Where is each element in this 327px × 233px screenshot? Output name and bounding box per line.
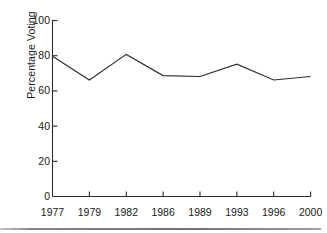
y-tick-label-60: 60 [0, 84, 50, 96]
y-tick-label-40: 40 [0, 120, 50, 132]
x-tick-label-1996: 1996 [254, 206, 294, 219]
y-tick-label-80: 80 [0, 49, 50, 61]
x-tick-label-1993: 1993 [217, 206, 257, 219]
y-tick-label-100: 100 [0, 14, 50, 26]
x-tick-label-1977: 1977 [33, 206, 73, 219]
page-scan-edge [0, 228, 321, 230]
data-series-line [53, 54, 311, 80]
y-tick-label-0: 0 [0, 190, 50, 202]
y-tick-label-20: 20 [0, 155, 50, 167]
x-tick-label-2000: 2000 [291, 206, 327, 219]
x-tick-label-1979: 1979 [69, 206, 109, 219]
x-tick-marks [89, 192, 310, 197]
x-tick-label-1982: 1982 [106, 206, 146, 219]
x-tick-label-1989: 1989 [180, 206, 220, 219]
x-tick-label-1986: 1986 [143, 206, 183, 219]
page-scan-edge-highlight [0, 231, 321, 233]
y-tick-marks [53, 21, 58, 162]
